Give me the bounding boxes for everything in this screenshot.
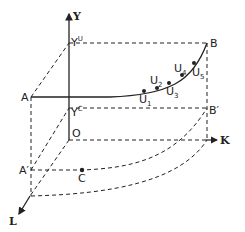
l-axis-label: L — [9, 215, 17, 228]
u3-label: U3 — [166, 85, 179, 100]
k-axis-label: K — [220, 134, 230, 147]
point-aprime-label: A′ — [19, 164, 30, 177]
aprime-bprime-curve — [31, 108, 207, 170]
u2-label: U2 — [150, 74, 163, 89]
aprime-yc-line — [31, 108, 69, 170]
u5-label: U5 — [192, 66, 205, 81]
point-bprime-label: B′ — [209, 104, 220, 117]
diagram-svg: Y K L O A B A′ B′ C YU YC U1 U2 U3 U4 U5 — [0, 0, 245, 232]
u4-label: U4 — [174, 62, 187, 77]
yu-label: YU — [70, 35, 83, 49]
yc-label: YC — [70, 105, 83, 119]
u5-point — [192, 61, 196, 65]
lower-base-curve — [31, 140, 207, 196]
l-axis-arrow — [19, 196, 30, 214]
y-axis-label: Y — [72, 10, 81, 23]
l-axis — [30, 140, 69, 196]
a-yu-line — [31, 43, 69, 97]
point-c-label: C — [78, 172, 86, 185]
u1-label: U1 — [139, 93, 152, 108]
point-b-label: B — [210, 37, 218, 50]
point-a-label: A — [21, 91, 29, 104]
origin-label: O — [72, 127, 81, 140]
diagram-canvas: Y K L O A B A′ B′ C YU YC U1 U2 U3 U4 U5 — [0, 0, 245, 232]
